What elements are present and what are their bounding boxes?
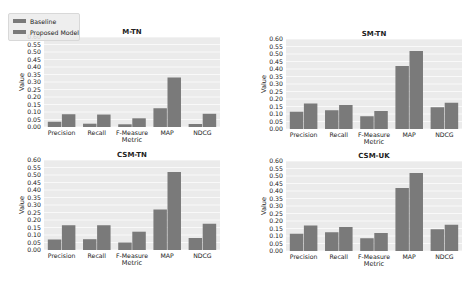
- y-tick-label: 0.10: [27, 231, 41, 238]
- bar-proposed-model-f-measure: [374, 111, 387, 129]
- x-tick-label: MAP: [403, 253, 417, 260]
- x-tick-label: Recall: [88, 129, 107, 136]
- chart-title: CSM-UK: [358, 152, 390, 160]
- bar-baseline-ndcg: [189, 238, 202, 250]
- y-tick-label: 0.05: [27, 116, 41, 123]
- y-tick-label: 0.05: [27, 239, 41, 246]
- bar-proposed-model-recall: [339, 105, 352, 129]
- chart-panel-m-tn: 0.000.050.100.150.200.250.300.350.400.45…: [18, 28, 220, 144]
- bar-baseline-map: [153, 108, 166, 127]
- bar-proposed-model-f-measure: [132, 232, 145, 250]
- chart-panel-csm-uk: 0.000.050.100.150.200.250.300.350.400.45…: [260, 152, 462, 268]
- x-axis-label: Metric: [122, 259, 143, 267]
- bar-baseline-precision: [48, 240, 61, 251]
- legend-item-proposed: Proposed Model: [13, 27, 79, 37]
- bar-proposed-model-ndcg: [203, 114, 216, 127]
- y-tick-label: 0.55: [269, 43, 283, 50]
- y-tick-label: 0.20: [269, 95, 283, 102]
- legend-label-baseline: Baseline: [30, 18, 56, 25]
- x-tick-label: Precision: [290, 131, 318, 138]
- chart-title: CSM-TN: [117, 151, 147, 159]
- bar-baseline-f-measure: [360, 238, 373, 251]
- bar-baseline-f-measure: [360, 116, 373, 129]
- y-tick-label: 0.30: [269, 80, 283, 87]
- y-tick-label: 0.40: [27, 186, 41, 193]
- bar-baseline-ndcg: [431, 229, 444, 251]
- x-tick-label: Precision: [48, 252, 76, 259]
- chart-title: SM-TN: [362, 30, 387, 38]
- y-tick-label: 0.30: [269, 202, 283, 209]
- bar-baseline-ndcg: [431, 107, 444, 129]
- y-tick-label: 0.25: [27, 209, 41, 216]
- y-tick-label: 0.55: [27, 164, 41, 171]
- x-tick-label: F-Measure: [116, 252, 148, 259]
- x-tick-label: Precision: [290, 253, 318, 260]
- y-tick-label: 0.55: [27, 41, 41, 48]
- legend-swatch-baseline: [13, 19, 26, 23]
- x-tick-label: MAP: [403, 131, 417, 138]
- bar-baseline-precision: [48, 122, 61, 127]
- y-axis-label: Value: [18, 73, 26, 91]
- bar-baseline-f-measure: [118, 243, 131, 251]
- y-tick-label: 0.00: [269, 247, 283, 254]
- y-tick-label: 0.10: [269, 110, 283, 117]
- bar-baseline-recall: [325, 232, 338, 251]
- y-tick-label: 0.05: [269, 240, 283, 247]
- x-tick-label: NDCG: [193, 129, 212, 136]
- bar-baseline-recall: [83, 124, 96, 127]
- bar-proposed-model-precision: [304, 104, 317, 130]
- y-tick-label: 0.40: [269, 65, 283, 72]
- y-tick-label: 0.25: [269, 88, 283, 95]
- y-tick-label: 0.30: [27, 201, 41, 208]
- bar-proposed-model-ndcg: [203, 224, 216, 250]
- chart-title: M-TN: [122, 28, 142, 36]
- y-tick-label: 0.45: [269, 180, 283, 187]
- y-tick-label: 0.25: [27, 86, 41, 93]
- x-tick-label: Recall: [88, 252, 107, 259]
- y-tick-label: 0.50: [27, 48, 41, 55]
- x-tick-label: F-Measure: [358, 131, 390, 138]
- bar-proposed-model-recall: [97, 115, 110, 127]
- y-tick-label: 0.60: [269, 157, 283, 164]
- y-axis-label: Value: [260, 75, 268, 93]
- bar-proposed-model-precision: [62, 225, 75, 250]
- y-tick-label: 0.50: [269, 172, 283, 179]
- y-tick-label: 0.05: [269, 118, 283, 125]
- bar-baseline-map: [395, 66, 408, 129]
- bar-baseline-map: [395, 188, 408, 251]
- x-tick-label: Recall: [330, 131, 349, 138]
- bar-proposed-model-map: [410, 51, 423, 129]
- y-tick-label: 0.20: [27, 216, 41, 223]
- legend-label-proposed: Proposed Model: [30, 29, 79, 36]
- y-tick-label: 0.00: [269, 125, 283, 132]
- bar-baseline-recall: [83, 239, 96, 250]
- bar-baseline-ndcg: [189, 124, 202, 127]
- bar-proposed-model-recall: [97, 225, 110, 250]
- y-axis-label: Value: [18, 196, 26, 214]
- y-tick-label: 0.35: [269, 195, 283, 202]
- bar-proposed-model-ndcg: [445, 225, 458, 251]
- bar-baseline-f-measure: [118, 124, 131, 127]
- y-tick-label: 0.55: [269, 165, 283, 172]
- y-tick-label: 0.45: [27, 179, 41, 186]
- chart-panel-sm-tn: 0.000.050.100.150.200.250.300.350.400.45…: [260, 30, 462, 146]
- y-tick-label: 0.40: [27, 63, 41, 70]
- y-tick-label: 0.40: [269, 187, 283, 194]
- x-axis-label: Metric: [364, 260, 385, 268]
- y-tick-label: 0.00: [27, 123, 41, 130]
- y-tick-label: 0.10: [27, 108, 41, 115]
- x-tick-label: Recall: [330, 253, 349, 260]
- x-axis-label: Metric: [122, 136, 143, 144]
- bar-proposed-model-f-measure: [374, 233, 387, 251]
- x-tick-label: MAP: [161, 129, 175, 136]
- legend-item-baseline: Baseline: [13, 16, 56, 26]
- y-tick-label: 0.20: [27, 93, 41, 100]
- x-axis-label: Metric: [364, 138, 385, 146]
- bar-baseline-recall: [325, 110, 338, 129]
- y-tick-label: 0.45: [27, 56, 41, 63]
- figure-canvas: 0.000.050.100.150.200.250.300.350.400.45…: [0, 0, 472, 285]
- y-tick-label: 0.50: [269, 50, 283, 57]
- y-tick-label: 0.60: [27, 156, 41, 163]
- y-tick-label: 0.35: [269, 73, 283, 80]
- y-tick-label: 0.60: [269, 35, 283, 42]
